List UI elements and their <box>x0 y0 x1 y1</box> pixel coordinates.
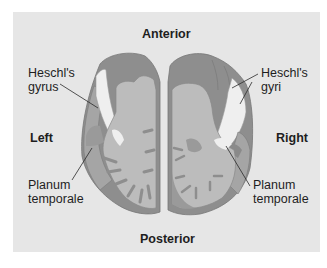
right-planum-label-line2: temporale <box>253 192 309 206</box>
right-label: Right <box>276 131 308 145</box>
posterior-label: Posterior <box>140 232 195 246</box>
left-planum-label-line1: Planum <box>28 178 70 192</box>
right-hemisphere <box>168 54 253 215</box>
left-hemisphere <box>82 53 160 214</box>
left-heschl-label-line2: gyrus <box>28 80 59 94</box>
right-heschl-label-line2: gyri <box>261 80 281 94</box>
left-planum-label-line2: temporale <box>28 192 84 206</box>
left-heschl-label-line1: Heschl's <box>28 66 75 80</box>
left-label: Left <box>30 131 53 145</box>
right-heschl-label-line1: Heschl's <box>261 66 308 80</box>
anterior-label: Anterior <box>142 27 191 41</box>
right-planum-label-line1: Planum <box>253 178 295 192</box>
